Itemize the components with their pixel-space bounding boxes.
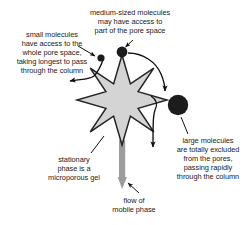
leader-medium-molecules: [126, 40, 134, 47]
leader-mobile-phase: [128, 183, 139, 193]
large-molecule: [168, 95, 188, 115]
leader-stationary-phase: [91, 136, 104, 153]
label-small-molecules: small molecules have access to the whole…: [2, 30, 102, 75]
medium-molecule: [117, 47, 128, 58]
label-mobile-phase: flow of mobile phase: [96, 196, 172, 214]
label-stationary-phase: stationary phase is a microporous gel: [28, 155, 120, 182]
leader-large-molecules: [181, 117, 188, 134]
label-large-molecules: large molecules are totally excluded fro…: [166, 136, 250, 181]
label-medium-molecules: medium-sized molecules may have access t…: [74, 8, 186, 35]
sec-diagram-figure: small molecules have access to the whole…: [0, 0, 251, 225]
